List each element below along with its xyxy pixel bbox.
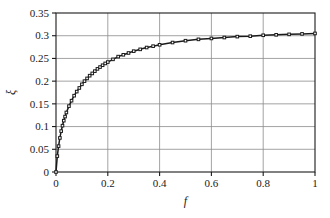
- y-tick-label: 0.25: [30, 52, 50, 64]
- data-point-marker: [223, 36, 226, 39]
- data-point-marker: [288, 33, 291, 36]
- data-point-marker: [73, 94, 76, 97]
- series-line: [56, 33, 315, 172]
- data-point-marker: [61, 124, 64, 127]
- data-point-marker: [158, 44, 161, 47]
- data-point-marker: [75, 90, 78, 93]
- data-point-marker: [81, 83, 84, 86]
- x-tick-label: 0: [53, 177, 59, 189]
- data-point-marker: [127, 52, 130, 55]
- data-point-marker: [197, 38, 200, 41]
- data-series: [55, 32, 317, 173]
- x-tick-label: 0.4: [153, 177, 167, 189]
- plot-border: [56, 13, 315, 172]
- x-tick-label: 0.6: [205, 177, 219, 189]
- x-axis-title: f: [184, 194, 189, 208]
- data-point-marker: [64, 115, 67, 118]
- x-tick-label: 0.2: [101, 177, 115, 189]
- axis-ticks: [52, 13, 315, 176]
- data-point-marker: [86, 77, 89, 80]
- data-point-marker: [112, 58, 115, 61]
- data-point-marker: [184, 39, 187, 42]
- data-point-marker: [262, 34, 265, 37]
- data-point-marker: [236, 35, 239, 38]
- y-axis-title: ξ: [4, 89, 18, 95]
- data-point-marker: [301, 33, 304, 36]
- data-point-marker: [70, 99, 73, 102]
- y-tick-label: 0.2: [35, 75, 49, 87]
- data-point-marker: [132, 50, 135, 53]
- data-point-marker: [59, 137, 62, 140]
- data-point-marker: [122, 53, 125, 56]
- data-point-marker: [171, 41, 174, 44]
- data-point-marker: [210, 37, 213, 40]
- plot-frame: [56, 13, 315, 172]
- y-tick-label: 0.3: [35, 29, 49, 41]
- data-point-marker: [117, 55, 120, 58]
- data-point-marker: [65, 111, 68, 114]
- data-point-marker: [60, 130, 63, 133]
- data-point-marker: [62, 119, 65, 122]
- x-tick-label: 1: [312, 177, 318, 189]
- y-tick-label: 0.05: [30, 143, 50, 155]
- y-tick-label: 0.35: [30, 7, 50, 19]
- data-point-marker: [139, 48, 142, 51]
- data-point-marker: [68, 105, 71, 108]
- y-tick-label: 0.15: [30, 98, 50, 110]
- data-point-marker: [275, 34, 278, 37]
- data-point-marker: [57, 145, 60, 148]
- data-point-marker: [145, 46, 148, 49]
- y-tick-label: 0: [44, 166, 50, 178]
- data-point-marker: [314, 32, 317, 35]
- gridlines: [56, 13, 315, 172]
- chart-figure: 00.050.10.150.20.250.30.3500.20.40.60.81…: [0, 0, 330, 218]
- data-point-marker: [83, 80, 86, 83]
- data-point-marker: [152, 45, 155, 48]
- data-point-marker: [249, 35, 252, 38]
- x-tick-label: 0.8: [256, 177, 270, 189]
- data-point-marker: [78, 87, 81, 90]
- y-tick-label: 0.1: [35, 120, 49, 132]
- data-point-marker: [107, 61, 110, 64]
- chart-canvas: 00.050.10.150.20.250.30.3500.20.40.60.81…: [0, 0, 330, 218]
- data-point-marker: [55, 171, 58, 174]
- data-point-marker: [56, 155, 59, 158]
